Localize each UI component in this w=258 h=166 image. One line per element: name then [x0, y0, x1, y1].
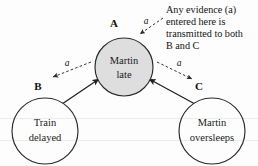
- bayesian-network-diagram: a a a Martin late A Train delayed B Mart…: [0, 0, 258, 166]
- edge-b-to-a: [62, 79, 99, 104]
- edge-c-to-a: [149, 79, 195, 104]
- node-b-label-line1: Train: [34, 117, 57, 128]
- node-b-tag: B: [34, 80, 42, 92]
- node-a-label-line1: Martin: [110, 55, 139, 66]
- node-c-label-line2: oversleeps: [190, 132, 234, 143]
- evidence-label-a-to-b: a: [65, 58, 70, 68]
- node-b-label-line2: delayed: [29, 132, 62, 143]
- node-c-circle[interactable]: [179, 98, 245, 164]
- node-b-circle[interactable]: [12, 98, 78, 164]
- evidence-note-line-4: B and C: [166, 40, 200, 51]
- node-c[interactable]: Martin oversleeps: [179, 98, 245, 164]
- scan-artifact-upper: [0, 118, 258, 119]
- figure-root: a a a Martin late A Train delayed B Mart…: [0, 0, 258, 166]
- node-c-tag: C: [195, 80, 203, 92]
- node-c-label-line1: Martin: [198, 117, 227, 128]
- scan-artifact-lower: [0, 140, 258, 141]
- node-a-tag: A: [110, 17, 118, 29]
- evidence-note-line-2: entered here is: [166, 16, 225, 27]
- evidence-arrow-a-to-b: [53, 62, 91, 77]
- node-a-label-line2: late: [116, 69, 131, 80]
- evidence-note-line-3: transmitted to both: [166, 28, 243, 39]
- node-a-circle[interactable]: [95, 38, 153, 96]
- node-a[interactable]: Martin late: [95, 38, 153, 96]
- evidence-note-line-1: Any evidence (a): [166, 4, 236, 16]
- evidence-note: Any evidence (a) entered here is transmi…: [166, 4, 243, 51]
- evidence-label-into-a: a: [144, 16, 149, 26]
- evidence-label-a-to-c: a: [177, 58, 182, 68]
- node-b[interactable]: Train delayed: [12, 98, 78, 164]
- evidence-arrow-a-to-c: [157, 62, 192, 79]
